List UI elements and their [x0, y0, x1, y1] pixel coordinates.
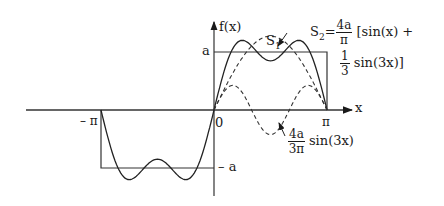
term3-pointer-arrow: [279, 123, 285, 136]
s2-coefficient: 4aπ: [336, 19, 353, 46]
term3-coefficient: 4a3π: [288, 128, 305, 155]
term3-coef-num: 4a: [288, 128, 305, 142]
tick-pi-label: π: [322, 116, 330, 128]
tick-neg-pi-label: – π: [80, 115, 98, 127]
origin-label: 0: [215, 116, 223, 129]
y-axis-label: f(x): [219, 20, 241, 33]
level-neg-a-label: – a: [218, 160, 236, 173]
term3-label: 4a3π sin(3x): [288, 128, 354, 155]
s2-letter: S: [310, 24, 319, 39]
s1-letter: S: [266, 33, 275, 48]
level-a-label: a: [202, 44, 210, 57]
term3-func: sin(3x): [309, 133, 354, 148]
s2-coef-den: π: [336, 33, 353, 46]
s2-bracket-open: [sin(x) +: [356, 24, 413, 39]
s2-frac-num: 1: [340, 50, 350, 64]
s1-subscript: 1: [275, 41, 281, 51]
s2-equation: S2=4aπ [sin(x) +: [310, 19, 413, 46]
s2-coef-num: 4a: [336, 19, 353, 33]
s2-equation-line2: 13 sin(3x)]: [340, 50, 404, 77]
s2-equals: =: [325, 24, 336, 39]
x-axis-label: x: [355, 101, 362, 114]
s1-label: S1: [266, 34, 281, 51]
s2-bracket-close: sin(3x)]: [354, 55, 404, 70]
s2-third-fraction: 13: [340, 50, 350, 77]
term3-coef-den: 3π: [288, 142, 305, 155]
s2-frac-den: 3: [340, 64, 350, 77]
